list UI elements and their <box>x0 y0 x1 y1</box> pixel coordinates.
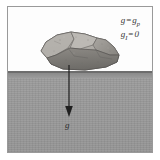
equation-line-1: g=gp <box>121 15 140 29</box>
physics-figure: g=gp gI=0 g <box>0 0 160 160</box>
equation-line-2: gI=0 <box>121 29 140 43</box>
eq1-rhs-subscript: p <box>137 20 140 27</box>
eq2-rhs: 0 <box>134 29 139 39</box>
gravity-vector-label: g <box>65 120 70 130</box>
figure-frame: g=gp gI=0 g <box>7 6 153 153</box>
gravity-vector-arrow <box>56 65 82 121</box>
equation-block: g=gp gI=0 <box>121 15 140 43</box>
